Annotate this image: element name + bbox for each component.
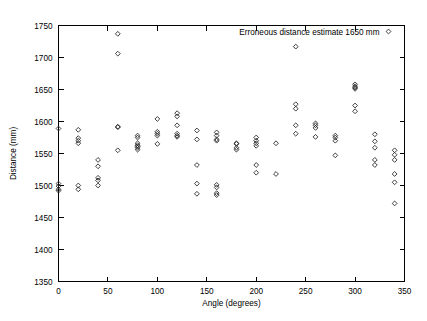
y-tick-label: 1500	[34, 182, 53, 191]
data-point-marker	[115, 148, 120, 153]
x-tick-label: 100	[151, 287, 165, 296]
y-tick-label: 1600	[34, 118, 53, 127]
data-point-marker	[274, 172, 279, 177]
x-tick-label: 300	[348, 287, 362, 296]
x-tick-label: 250	[299, 287, 313, 296]
data-point-marker	[175, 114, 180, 119]
data-point-marker	[353, 109, 358, 114]
data-point-marker	[254, 135, 259, 140]
data-point-marker	[76, 127, 81, 132]
data-point-marker	[392, 172, 397, 177]
data-point-marker	[175, 111, 180, 116]
x-axis-title: Angle (degrees)	[202, 299, 261, 308]
data-point-marker	[392, 201, 397, 206]
data-point-marker	[313, 134, 318, 139]
x-tick-label: 200	[249, 287, 263, 296]
data-point-marker	[274, 141, 279, 146]
plot-axes	[59, 26, 405, 282]
chart-figure: 1350140014501500155016001650170017500501…	[0, 0, 427, 321]
y-tick-label: 1750	[34, 22, 53, 31]
y-tick-label: 1400	[34, 246, 53, 255]
y-tick-label: 1450	[34, 214, 53, 223]
data-point-marker	[155, 142, 160, 147]
data-point-marker	[115, 31, 120, 36]
data-point-marker	[372, 163, 377, 168]
plot-frame	[59, 26, 405, 282]
data-point-marker	[254, 163, 259, 168]
data-point-marker	[175, 123, 180, 128]
data-point-marker	[195, 137, 200, 142]
data-point-marker	[195, 128, 200, 133]
data-point-marker	[155, 117, 160, 122]
data-point-marker	[195, 181, 200, 186]
data-point-marker	[353, 103, 358, 108]
data-point-marker	[372, 158, 377, 163]
legend-label: Erroneous distance estimate 1650 mm	[239, 28, 379, 37]
data-point-marker	[195, 163, 200, 168]
data-point-marker	[96, 158, 101, 163]
legend-marker-icon	[386, 29, 391, 34]
x-tick-label: 350	[398, 287, 412, 296]
data-point-marker	[195, 191, 200, 196]
data-point-marker	[293, 44, 298, 49]
data-point-marker	[333, 138, 338, 143]
y-tick-label: 1550	[34, 150, 53, 159]
data-point-marker	[372, 145, 377, 150]
data-point-marker	[372, 139, 377, 144]
data-point-marker	[392, 158, 397, 163]
data-point-marker	[96, 183, 101, 188]
y-tick-label: 1350	[34, 278, 53, 287]
x-tick-label: 150	[200, 287, 214, 296]
y-axis-title: Distance (mm)	[9, 127, 18, 180]
chart-legend: Erroneous distance estimate 1650 mm	[239, 28, 391, 37]
data-point-marker	[293, 123, 298, 128]
data-point-marker	[293, 131, 298, 136]
data-point-marker	[392, 180, 397, 185]
data-points	[56, 31, 397, 205]
scatter-plot: 1350140014501500155016001650170017500501…	[0, 0, 427, 321]
x-tick-label: 50	[103, 287, 113, 296]
data-point-marker	[214, 130, 219, 135]
data-point-marker	[115, 51, 120, 56]
data-point-marker	[96, 164, 101, 169]
data-point-marker	[333, 153, 338, 158]
axis-ticks: 1350140014501500155016001650170017500501…	[34, 22, 411, 296]
data-point-marker	[254, 170, 259, 175]
y-tick-label: 1650	[34, 86, 53, 95]
y-tick-label: 1700	[34, 54, 53, 63]
data-point-marker	[372, 132, 377, 137]
x-tick-label: 0	[56, 287, 61, 296]
